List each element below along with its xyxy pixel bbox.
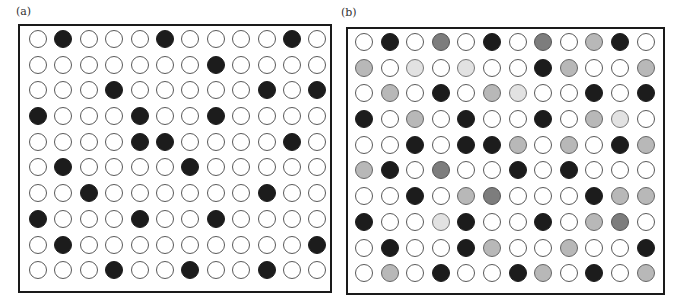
circle-white-icon	[232, 261, 250, 279]
circle-white-icon	[54, 210, 72, 228]
circle-white-icon	[105, 133, 123, 151]
circle-light-grey-icon	[637, 264, 655, 282]
circle-white-icon	[308, 261, 326, 279]
circle-white-icon	[80, 261, 98, 279]
circle-white-icon	[232, 133, 250, 151]
circle-white-icon	[156, 158, 174, 176]
circle-white-icon	[105, 184, 123, 202]
circle-white-icon	[308, 184, 326, 202]
circle-white-icon	[560, 33, 578, 51]
circle-white-icon	[432, 187, 450, 205]
circle-white-icon	[80, 81, 98, 99]
circle-white-icon	[156, 236, 174, 254]
circle-white-icon	[258, 30, 276, 48]
circle-white-icon	[232, 158, 250, 176]
circle-white-icon	[105, 56, 123, 74]
circle-white-icon	[509, 59, 527, 77]
circle-white-icon	[534, 84, 552, 102]
circle-light-grey-icon	[457, 187, 475, 205]
circle-black-icon	[585, 187, 603, 205]
circle-black-icon	[432, 84, 450, 102]
circle-black-icon	[156, 30, 174, 48]
circle-white-icon	[258, 133, 276, 151]
circle-white-icon	[560, 84, 578, 102]
circle-white-icon	[611, 84, 629, 102]
circle-white-icon	[432, 136, 450, 154]
circle-white-icon	[457, 84, 475, 102]
circle-white-icon	[381, 110, 399, 128]
circle-white-icon	[308, 158, 326, 176]
circle-black-icon	[585, 84, 603, 102]
circle-white-icon	[283, 107, 301, 125]
circle-white-icon	[258, 107, 276, 125]
circle-white-icon	[207, 261, 225, 279]
circle-white-icon	[105, 30, 123, 48]
circle-light-grey-icon	[381, 264, 399, 282]
circle-white-icon	[131, 56, 149, 74]
circle-white-icon	[534, 239, 552, 257]
circle-white-icon	[181, 133, 199, 151]
circle-mid-grey-icon	[483, 187, 501, 205]
circle-white-icon	[232, 107, 250, 125]
circle-white-icon	[637, 213, 655, 231]
circle-white-icon	[181, 236, 199, 254]
circle-black-icon	[156, 133, 174, 151]
circle-white-icon	[381, 187, 399, 205]
circle-black-icon	[560, 161, 578, 179]
circle-white-icon	[80, 210, 98, 228]
circle-white-icon	[534, 136, 552, 154]
circle-white-icon	[406, 33, 424, 51]
circle-white-icon	[406, 84, 424, 102]
circle-light-grey-icon	[585, 213, 603, 231]
circle-white-icon	[207, 158, 225, 176]
circle-white-icon	[355, 187, 373, 205]
circle-white-icon	[637, 33, 655, 51]
circle-mid-grey-icon	[611, 213, 629, 231]
circle-black-icon	[483, 33, 501, 51]
circle-black-icon	[54, 236, 72, 254]
circle-very-light-grey-icon	[509, 84, 527, 102]
circle-white-icon	[534, 161, 552, 179]
circle-white-icon	[483, 264, 501, 282]
circle-white-icon	[181, 107, 199, 125]
circle-white-icon	[637, 110, 655, 128]
circle-white-icon	[483, 213, 501, 231]
circle-black-icon	[534, 59, 552, 77]
circle-black-icon	[105, 261, 123, 279]
circle-white-icon	[29, 56, 47, 74]
circle-white-icon	[207, 81, 225, 99]
circle-black-icon	[381, 161, 399, 179]
circle-white-icon	[560, 213, 578, 231]
circle-white-icon	[80, 30, 98, 48]
circle-black-icon	[131, 210, 149, 228]
circle-white-icon	[611, 59, 629, 77]
circle-light-grey-icon	[560, 239, 578, 257]
circle-black-icon	[381, 239, 399, 257]
circle-light-grey-icon	[585, 110, 603, 128]
circle-white-icon	[355, 136, 373, 154]
circle-white-icon	[283, 236, 301, 254]
circle-white-icon	[131, 158, 149, 176]
circle-white-icon	[207, 133, 225, 151]
circle-white-icon	[80, 236, 98, 254]
circle-white-icon	[611, 161, 629, 179]
circle-very-light-grey-icon	[406, 59, 424, 77]
circle-white-icon	[283, 56, 301, 74]
circle-white-icon	[308, 107, 326, 125]
circle-white-icon	[181, 210, 199, 228]
circle-white-icon	[283, 184, 301, 202]
circle-white-icon	[308, 30, 326, 48]
circle-white-icon	[29, 236, 47, 254]
circle-white-icon	[585, 239, 603, 257]
circle-white-icon	[181, 56, 199, 74]
circle-white-icon	[258, 210, 276, 228]
circle-white-icon	[54, 133, 72, 151]
circle-white-icon	[156, 210, 174, 228]
circle-white-icon	[381, 59, 399, 77]
circle-black-icon	[534, 110, 552, 128]
circle-white-icon	[156, 107, 174, 125]
circle-white-icon	[156, 81, 174, 99]
circle-black-icon	[457, 239, 475, 257]
circle-black-icon	[54, 158, 72, 176]
circle-black-icon	[509, 264, 527, 282]
